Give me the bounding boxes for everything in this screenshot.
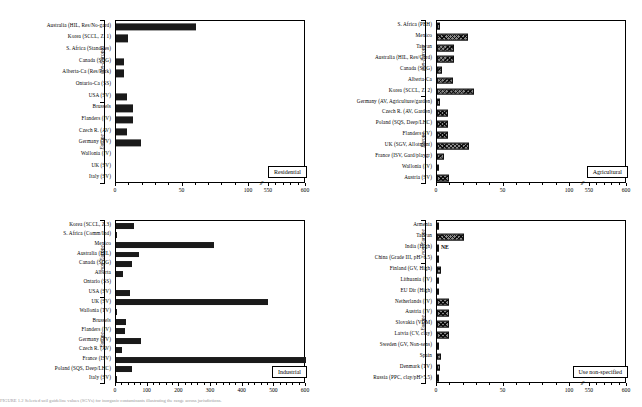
bar-row [437, 308, 625, 319]
axis-tick-minor [195, 183, 196, 185]
bar [116, 366, 132, 372]
bar-row [116, 126, 304, 138]
axis-tick-major [503, 183, 504, 186]
figure-caption: FIGURE 1.2 Selected soil guideline value… [0, 398, 642, 403]
axis-tick-minor [134, 383, 135, 385]
bar [116, 70, 124, 77]
axis-tick-minor [235, 183, 236, 185]
group-tick [100, 102, 105, 103]
axis-tick-major [305, 183, 306, 186]
category-label: Italy (SV) [89, 375, 111, 380]
bar [437, 332, 449, 339]
axis-tick-label: 50 [179, 187, 185, 193]
axis-tick-major [305, 383, 306, 386]
category-label: Czech R. (AV) [79, 128, 111, 133]
axis-tick-minor [619, 183, 620, 185]
category-axis-labels: S. Africa (PEH)MexicoTaiwanAustralia (HI… [321, 20, 434, 183]
value-axis: 0100200300400500600 [115, 383, 305, 399]
axis-tick-minor [280, 383, 281, 385]
axis-tick-minor [290, 183, 291, 185]
bar [116, 128, 127, 135]
value-axis: 050100550600// [436, 183, 626, 199]
axis-tick-minor [556, 183, 557, 185]
bar [437, 175, 449, 182]
axis-tick-label: 550 [585, 187, 593, 193]
axis-tick-minor [604, 183, 605, 185]
category-label: USA (SV) [89, 289, 111, 294]
bar-row [437, 297, 625, 308]
bar [437, 223, 439, 230]
bar [116, 58, 124, 65]
axis-tick-minor [221, 183, 222, 185]
bar-row [437, 351, 625, 362]
axis-tick-minor [140, 383, 141, 385]
axis-tick-label: 100 [142, 387, 150, 393]
group-tick [421, 383, 426, 384]
axis-tick-minor [168, 183, 169, 185]
bar [116, 35, 128, 42]
bar [437, 288, 439, 295]
axis-tick-major [115, 183, 116, 186]
category-label: Czech R. (AV) [79, 346, 111, 351]
axis-tick-minor [542, 383, 543, 385]
bar-row [116, 33, 304, 45]
bar-row [437, 108, 625, 119]
group-label: non-Europe [420, 222, 426, 262]
bar [437, 143, 469, 150]
bar-row [437, 319, 625, 330]
group-bracket-axis: non-EuropeEurope [104, 220, 106, 383]
bar-row [437, 254, 625, 265]
group-bracket-axis: non-EuropeEurope [104, 20, 106, 183]
bar-row [437, 130, 625, 141]
bar [437, 23, 440, 30]
bar [437, 34, 468, 41]
bar [116, 376, 117, 382]
axis-tick-major [589, 383, 590, 386]
axis-tick-minor [604, 383, 605, 385]
bar-row [437, 243, 625, 254]
bar-row [437, 86, 625, 97]
bar-row [116, 336, 304, 346]
bar-row [437, 330, 625, 341]
bar [437, 299, 449, 306]
category-axis-labels: Australia (HIL, Res/No-gard)Korea (SCCL,… [0, 20, 113, 183]
category-label: EU Dir (High) [400, 288, 432, 293]
axis-tick-major [569, 383, 570, 386]
axis-tick-major [268, 183, 269, 186]
panel-title-tag: Residential [268, 166, 307, 178]
axis-tick-minor [267, 383, 268, 385]
bar [116, 242, 214, 248]
category-label: Lithuania (IV) [400, 277, 432, 282]
bar-row [437, 275, 625, 286]
axis-tick-label: 400 [237, 387, 245, 393]
bar [437, 375, 439, 382]
group-label: non-Europe [99, 238, 105, 278]
axis-tick-minor [216, 383, 217, 385]
bar [437, 77, 453, 84]
bar [116, 299, 268, 305]
axis-tick-label: 100 [565, 387, 573, 393]
axis-tick-minor [476, 183, 477, 185]
bar [437, 266, 441, 273]
axis-tick-minor [155, 183, 156, 185]
category-label: Wallonia (IV) [81, 151, 111, 156]
axis-tick-label: 550 [585, 387, 593, 393]
bar-row [116, 326, 304, 336]
axis-tick-major [182, 183, 183, 186]
bar-row [116, 221, 304, 231]
axis-tick-label: 600 [622, 387, 630, 393]
category-label: Flanders (IV) [403, 131, 432, 136]
bar-row [437, 140, 625, 151]
axis-tick-minor [463, 183, 464, 185]
bar [437, 88, 474, 95]
bar [437, 99, 440, 106]
group-label: Europe [99, 320, 105, 360]
bar [437, 343, 439, 350]
group-tick [421, 20, 426, 21]
axis-tick-minor [235, 383, 236, 385]
bar-row [116, 68, 304, 80]
category-label: Germany (AV, Agriculture/garden) [357, 99, 432, 104]
bar-row [437, 43, 625, 54]
axis-tick-minor [248, 383, 249, 385]
category-label: Flanders (IV) [82, 327, 111, 332]
